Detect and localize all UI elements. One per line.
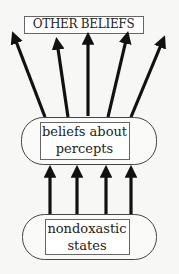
label-line: states (45, 237, 129, 254)
label-line: beliefs about (40, 123, 129, 140)
arrow-icon (131, 40, 163, 117)
nondoxastic-states-label: nondoxastic states (45, 220, 129, 254)
label-line: percepts (40, 140, 129, 157)
arrow-icon (14, 36, 45, 117)
arrow-icon (108, 36, 127, 117)
other-beliefs-label: OTHER BELIEFS (24, 16, 143, 33)
beliefs-about-percepts-label: beliefs about percepts (40, 123, 129, 157)
lower-arrows (50, 170, 131, 214)
label-line: nondoxastic (45, 220, 129, 237)
upper-arrows (14, 36, 163, 117)
arrow-icon (57, 42, 68, 117)
